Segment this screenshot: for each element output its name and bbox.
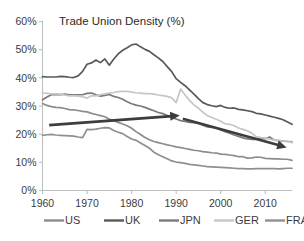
arrow-shaft — [49, 116, 172, 125]
legend-label-uk: UK — [125, 214, 141, 226]
legend-item-ger[interactable]: GER — [214, 214, 259, 226]
x-axis-tick-labels: 196019701980199020002010 — [31, 197, 277, 209]
y-axis-tick-label: 30% — [15, 100, 36, 112]
x-axis-tick-label: 2000 — [209, 197, 233, 209]
x-axis-tick-label: 1980 — [120, 197, 144, 209]
chart-title: Trade Union Density (%) — [59, 15, 185, 27]
legend-item-jpn[interactable]: JPN — [159, 214, 201, 226]
falling-trend-arrow — [183, 119, 287, 150]
data-series-layer — [43, 44, 293, 169]
legend-item-uk[interactable]: UK — [104, 214, 141, 226]
trade-union-density-chart: 0%10%20%30%40%50%60% 1960197019801990200… — [0, 0, 304, 241]
legend-item-us[interactable]: US — [44, 214, 80, 226]
annotation-layer — [49, 112, 286, 150]
y-axis-tick-label: 40% — [15, 72, 36, 84]
series-line-fra — [43, 128, 293, 169]
y-axis-tick-label: 0% — [21, 184, 36, 196]
y-axis-tick-label: 60% — [15, 15, 36, 27]
chart-canvas: 0%10%20%30%40%50%60% 1960197019801990200… — [0, 0, 304, 241]
legend-item-fra[interactable]: FRA — [265, 214, 304, 226]
y-axis-tick-label: 10% — [15, 156, 36, 168]
x-axis-tick-label: 2010 — [254, 197, 278, 209]
y-axis-tick-label: 20% — [15, 128, 36, 140]
x-axis-tick-label: 1990 — [164, 197, 188, 209]
chart-legend: USUKJPNGERFRA — [44, 214, 304, 226]
y-axis-tick-label: 50% — [15, 43, 36, 55]
legend-label-ger: GER — [235, 214, 259, 226]
x-axis-tick-label: 1960 — [31, 197, 55, 209]
series-line-uk — [43, 44, 293, 124]
legend-label-us: US — [65, 214, 80, 226]
y-axis-tick-labels: 0%10%20%30%40%50%60% — [15, 15, 36, 196]
legend-label-jpn: JPN — [180, 214, 201, 226]
arrow-shaft — [183, 119, 279, 146]
x-axis-tick-label: 1970 — [75, 197, 99, 209]
legend-label-fra: FRA — [286, 214, 304, 226]
